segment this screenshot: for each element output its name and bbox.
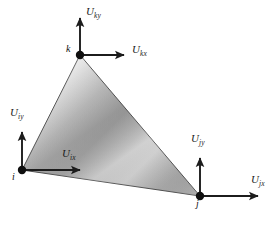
vector-jy-subscript: jy bbox=[199, 138, 205, 147]
vector-kx-subscript: kx bbox=[140, 49, 147, 58]
vector-jx-symbol: U bbox=[251, 173, 259, 185]
vector-jy-label: Ujy bbox=[191, 133, 205, 144]
vector-ix-subscript: ix bbox=[70, 153, 76, 162]
vector-iy-symbol: U bbox=[10, 106, 18, 118]
node-label-k: k bbox=[66, 44, 70, 54]
vector-ix-label: Uix bbox=[62, 148, 76, 159]
node-dot-i bbox=[18, 166, 26, 174]
triangle-element-sheen bbox=[22, 55, 200, 196]
node-dot-k bbox=[76, 51, 84, 59]
vector-iy-label: Uiy bbox=[10, 107, 24, 118]
figure-container: Uky Ukx Uiy Uix Ujy Ujx k i j bbox=[0, 0, 278, 227]
vector-ky-subscript: ky bbox=[94, 11, 101, 20]
vector-ky-symbol: U bbox=[86, 5, 94, 17]
vector-jy-symbol: U bbox=[191, 132, 199, 144]
element-diagram-canvas bbox=[0, 0, 278, 227]
node-label-i: i bbox=[12, 172, 15, 182]
vector-kx-label: Ukx bbox=[132, 44, 147, 55]
triangle-element-group bbox=[22, 55, 200, 196]
vector-ix-symbol: U bbox=[62, 147, 70, 159]
vector-iy-subscript: iy bbox=[18, 112, 24, 121]
vector-ky-label: Uky bbox=[86, 6, 101, 17]
vector-jx-subscript: jx bbox=[259, 179, 265, 188]
node-label-j: j bbox=[196, 199, 199, 209]
vector-kx-symbol: U bbox=[132, 43, 140, 55]
vector-jx-label: Ujx bbox=[251, 174, 265, 185]
